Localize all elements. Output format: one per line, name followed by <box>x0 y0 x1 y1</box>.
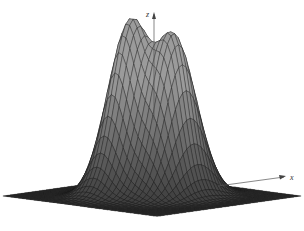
z-axis-arrowhead-icon <box>152 12 156 19</box>
z-axis-label: z <box>145 10 150 19</box>
x-axis-line <box>218 177 284 186</box>
surface-plot: z x <box>0 0 304 231</box>
x-axis-arrowhead-icon <box>279 175 286 180</box>
x-axis-label: x <box>289 173 294 182</box>
surface-mesh <box>3 19 301 217</box>
